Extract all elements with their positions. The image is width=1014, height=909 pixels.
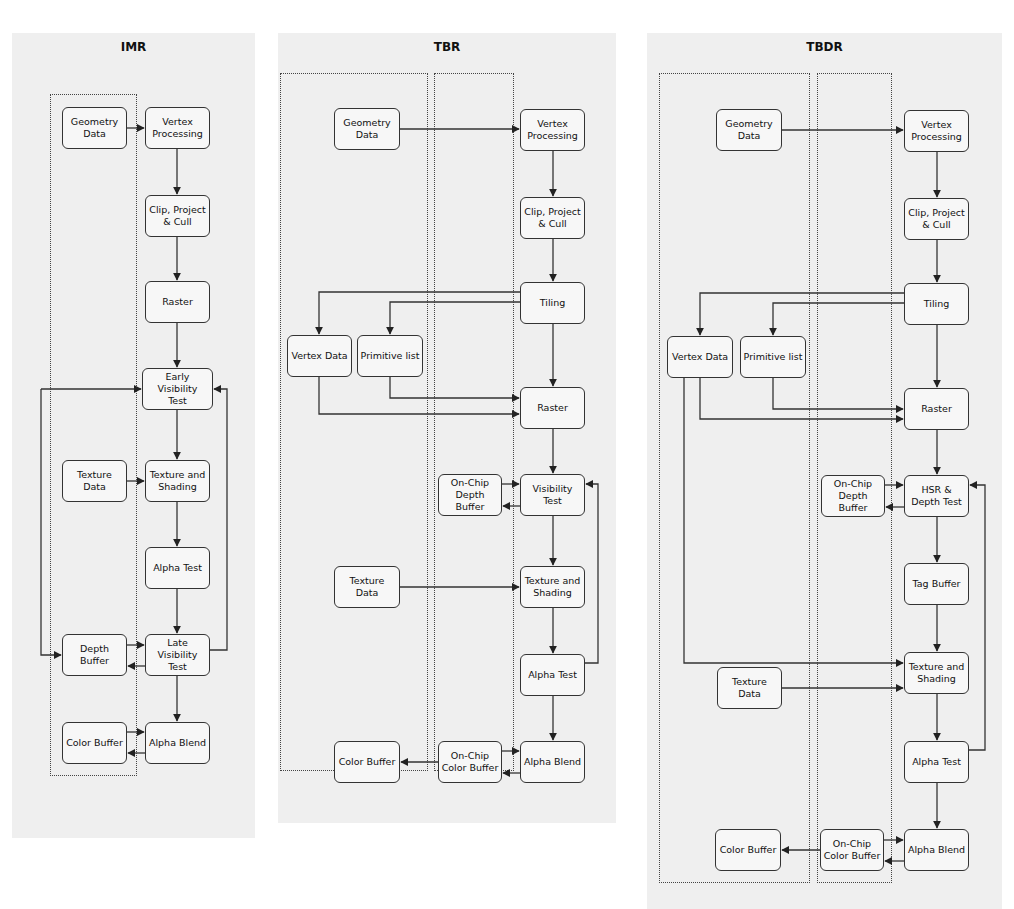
connector-arrows bbox=[0, 0, 1014, 909]
